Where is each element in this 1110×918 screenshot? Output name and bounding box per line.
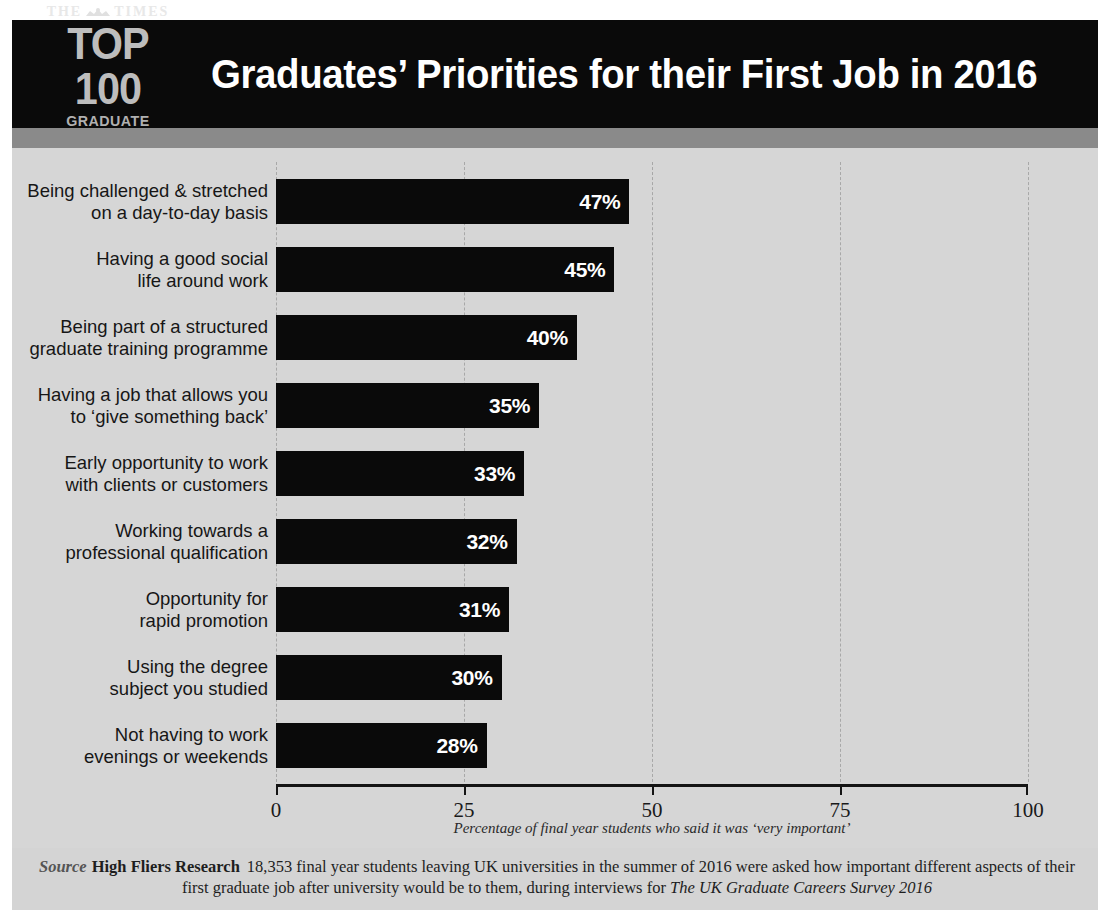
x-axis-tick-0 <box>276 784 278 795</box>
bar-category-label-line: Not having to work <box>20 724 268 746</box>
bar-value-label: 45% <box>564 258 605 282</box>
source-description: 18,353 final year students leaving UK un… <box>182 857 1075 897</box>
bar-value-label: 40% <box>527 326 568 350</box>
chart-header: THE TIMES TOP 100 GRADUATE EMPLOYERS Gra… <box>12 20 1098 128</box>
chart-row: Not having to workevenings or weekends28… <box>12 712 1098 780</box>
bar[interactable]: 31% <box>276 587 509 632</box>
bar-category-label: Using the degreesubject you studied <box>20 656 268 699</box>
logo-top100-text: TOP 100 <box>34 22 181 110</box>
bar[interactable]: 45% <box>276 247 614 292</box>
times-top100-logo: THE TIMES TOP 100 GRADUATE EMPLOYERS <box>12 5 188 142</box>
bar-category-label: Early opportunity to workwith clients or… <box>20 452 268 495</box>
chart-row: Early opportunity to workwith clients or… <box>12 440 1098 508</box>
bar-category-label: Working towards aprofessional qualificat… <box>20 520 268 563</box>
masthead-times: TIMES <box>114 5 169 19</box>
bar-category-label: Having a job that allows youto ‘give som… <box>20 384 268 427</box>
bar-track: 28% <box>276 723 1028 768</box>
source-footnote: SourceHigh Fliers Research18,353 final y… <box>12 852 1098 899</box>
bar[interactable]: 28% <box>276 723 487 768</box>
bar-category-label-line: Having a good social <box>20 248 268 270</box>
x-axis-caption: Percentage of final year students who sa… <box>276 820 1028 837</box>
chart-rows: Being challenged & stretchedon a day-to-… <box>12 168 1098 780</box>
bar-category-label-line: Being challenged & stretched <box>20 180 268 202</box>
bar[interactable]: 35% <box>276 383 539 428</box>
bar-value-label: 33% <box>474 462 515 486</box>
bar-category-label-line: graduate training programme <box>20 338 268 360</box>
bar-track: 47% <box>276 179 1028 224</box>
chart-row: Being part of a structuredgraduate train… <box>12 304 1098 372</box>
x-axis: 0255075100 <box>276 784 1028 794</box>
bar-track: 31% <box>276 587 1028 632</box>
bar-category-label-line: professional qualification <box>20 542 268 564</box>
bar-track: 35% <box>276 383 1028 428</box>
bar-category-label-line: life around work <box>20 270 268 292</box>
bar-category-label: Being part of a structuredgraduate train… <box>20 316 268 359</box>
bar-category-label-line: Opportunity for <box>20 588 268 610</box>
masthead-the: THE <box>47 5 83 19</box>
bar[interactable]: 32% <box>276 519 517 564</box>
bar-category-label-line: Working towards a <box>20 520 268 542</box>
bar-category-label-line: subject you studied <box>20 678 268 700</box>
source-organisation: High Fliers Research <box>92 857 240 876</box>
x-axis-tick-100 <box>1026 784 1028 795</box>
bar-category-label: Opportunity forrapid promotion <box>20 588 268 631</box>
bar-track: 30% <box>276 655 1028 700</box>
times-crest-icon <box>85 7 111 18</box>
bar-category-label-line: Being part of a structured <box>20 316 268 338</box>
bar[interactable]: 33% <box>276 451 524 496</box>
bar[interactable]: 40% <box>276 315 577 360</box>
bar-value-label: 47% <box>579 190 620 214</box>
bar[interactable]: 30% <box>276 655 502 700</box>
bar-category-label-line: on a day-to-day basis <box>20 202 268 224</box>
x-axis-tick-50 <box>652 784 654 795</box>
x-axis-tick-25 <box>464 784 466 795</box>
header-gray-band <box>12 128 1098 148</box>
page-title: Graduates’ Priorities for their First Jo… <box>188 52 1062 97</box>
bar-category-label-line: Using the degree <box>20 656 268 678</box>
chart-row: Opportunity forrapid promotion31% <box>12 576 1098 644</box>
chart-row: Being challenged & stretchedon a day-to-… <box>12 168 1098 236</box>
source-survey-title: The UK Graduate Careers Survey 2016 <box>670 878 932 897</box>
bar-category-label-line: Early opportunity to work <box>20 452 268 474</box>
bar-value-label: 31% <box>459 598 500 622</box>
bar-category-label-line: Having a job that allows you <box>20 384 268 406</box>
x-axis-tick-75 <box>840 784 842 795</box>
bar-value-label: 28% <box>436 734 477 758</box>
bar-track: 32% <box>276 519 1028 564</box>
bar-chart: Being challenged & stretchedon a day-to-… <box>12 148 1098 848</box>
bar-category-label: Having a good sociallife around work <box>20 248 268 291</box>
source-label: Source <box>39 857 87 876</box>
bar-category-label-line: with clients or customers <box>20 474 268 496</box>
bar-category-label: Being challenged & stretchedon a day-to-… <box>20 180 268 223</box>
chart-row: Using the degreesubject you studied30% <box>12 644 1098 712</box>
bar-category-label: Not having to workevenings or weekends <box>20 724 268 767</box>
bar-value-label: 35% <box>489 394 530 418</box>
times-masthead: THE TIMES <box>28 5 188 19</box>
bar-category-label-line: rapid promotion <box>20 610 268 632</box>
bar-track: 33% <box>276 451 1028 496</box>
bar-value-label: 30% <box>451 666 492 690</box>
chart-row: Having a job that allows youto ‘give som… <box>12 372 1098 440</box>
bar-category-label-line: to ‘give something back’ <box>20 406 268 428</box>
bar[interactable]: 47% <box>276 179 629 224</box>
chart-row: Having a good sociallife around work45% <box>12 236 1098 304</box>
chart-row: Working towards aprofessional qualificat… <box>12 508 1098 576</box>
bar-track: 45% <box>276 247 1028 292</box>
bar-track: 40% <box>276 315 1028 360</box>
bar-category-label-line: evenings or weekends <box>20 746 268 768</box>
chart-page: THE TIMES TOP 100 GRADUATE EMPLOYERS Gra… <box>0 0 1110 918</box>
bar-value-label: 32% <box>466 530 507 554</box>
